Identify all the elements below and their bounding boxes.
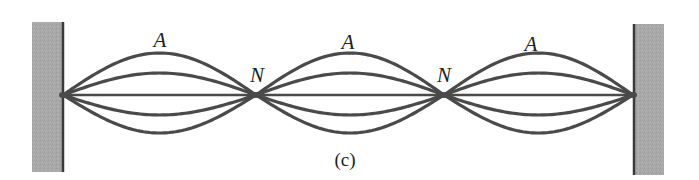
antinode-label-1: A [154,30,167,51]
node-point-2 [251,92,261,98]
standing-wave-diagram: A A A N N (c) [0,0,699,180]
wave-envelopes [59,53,637,133]
left-wall [32,22,63,172]
right-wall [634,24,664,175]
node-label-1: N [250,65,264,86]
node-point-1 [59,92,67,98]
node-point-3 [439,92,449,98]
node-point-4 [629,92,637,98]
figure-caption: (c) [334,150,355,169]
node-label-2: N [437,65,451,86]
antinode-label-3: A [525,34,538,55]
antinode-label-2: A [342,32,355,53]
